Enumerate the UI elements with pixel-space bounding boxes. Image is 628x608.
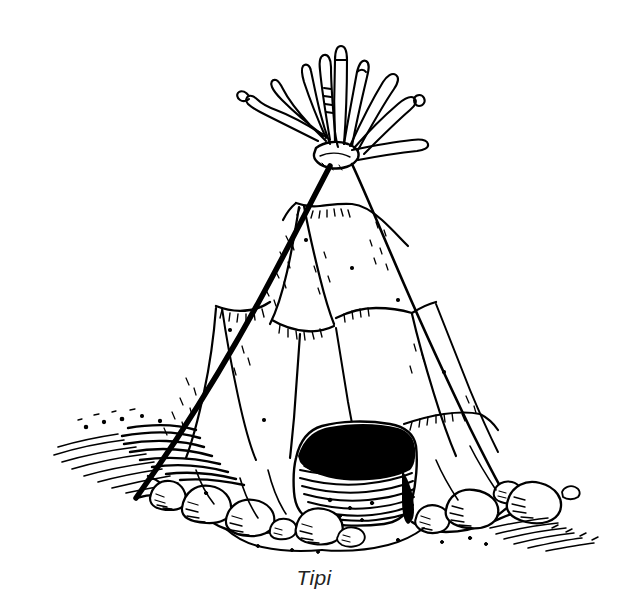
rock [337, 527, 365, 546]
figure-caption: Tipi [0, 566, 628, 590]
rock [446, 490, 499, 529]
rock [270, 519, 297, 539]
rock [562, 486, 580, 499]
rock [296, 508, 343, 544]
tipi-drawing-svg [0, 0, 628, 560]
rock [415, 505, 449, 533]
rock [507, 482, 561, 523]
rock [150, 481, 186, 510]
rock [182, 486, 231, 523]
illustration-page: Tipi [0, 0, 628, 608]
tipi-illustration [0, 0, 628, 560]
